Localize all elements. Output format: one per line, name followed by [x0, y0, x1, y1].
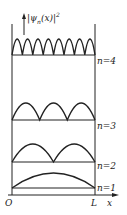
- level-label-n3: n=3: [97, 122, 116, 131]
- y-arrow-head-icon: [22, 13, 26, 19]
- level-label-n1: n=1: [97, 184, 116, 193]
- L-label: L: [91, 199, 97, 208]
- curve-n3: [12, 103, 95, 120]
- y-axis-label: |ψn(x)|2: [27, 12, 60, 25]
- origin-label: O: [5, 199, 12, 208]
- x-axis-label: x: [107, 199, 112, 208]
- level-label-n4: n=4: [97, 57, 116, 66]
- curve-n4: [12, 39, 95, 55]
- curve-n2: [12, 144, 95, 162]
- curve-n1: [12, 173, 95, 188]
- level-label-n2: n=2: [97, 162, 116, 171]
- x-arrow-head-icon: [112, 193, 119, 197]
